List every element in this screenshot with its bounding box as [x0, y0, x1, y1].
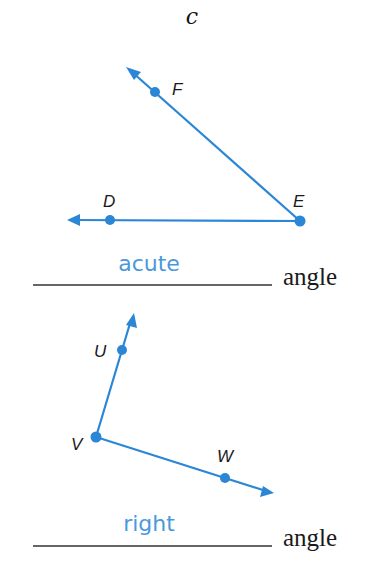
ray-vu [96, 320, 131, 437]
answer-right: right [123, 511, 175, 536]
angle-word-1: angle [283, 263, 337, 290]
angle-def: F D E acute angle [33, 67, 337, 290]
label-e: E [293, 192, 305, 211]
point-w [220, 473, 230, 483]
figure: c F D E acute angle U V W right angle [0, 0, 384, 570]
arrowhead-vu-icon [126, 313, 137, 328]
point-d [105, 215, 115, 225]
label-w: W [217, 447, 235, 466]
arrowhead-ed-icon [67, 214, 80, 226]
point-v [91, 432, 102, 443]
point-f [150, 87, 160, 97]
point-e [295, 216, 306, 227]
arrowhead-vw-icon [260, 486, 274, 497]
label-u: U [94, 342, 107, 361]
answer-acute: acute [118, 251, 180, 276]
angle-uvw: U V W right angle [33, 313, 337, 551]
problem-label: c [186, 4, 198, 29]
angle-word-2: angle [283, 524, 337, 551]
label-f: F [172, 80, 184, 99]
ray-vw [96, 437, 266, 491]
label-d: D [103, 192, 115, 211]
label-v: V [71, 435, 84, 454]
point-u [117, 345, 127, 355]
